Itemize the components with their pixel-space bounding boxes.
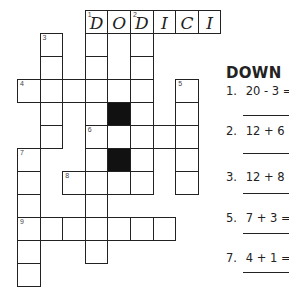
grid-cell[interactable] — [130, 33, 154, 57]
black-cell — [107, 102, 131, 126]
grid-cell[interactable]: C — [175, 10, 199, 34]
grid-cell[interactable] — [17, 240, 41, 264]
grid-cell[interactable] — [17, 263, 41, 287]
grid-cell[interactable] — [85, 79, 109, 103]
cell-number: 6 — [88, 126, 92, 133]
cell-number: 7 — [20, 149, 24, 156]
cell-letter: D — [131, 13, 153, 33]
grid-cell[interactable] — [40, 102, 64, 126]
answer-line-2[interactable] — [243, 153, 289, 154]
grid-cell[interactable] — [17, 171, 41, 195]
clue-text: 20 - 3 = — [246, 84, 289, 98]
grid-cell[interactable] — [130, 102, 154, 126]
clue-text: 7 + 3 = — [246, 211, 289, 225]
grid-cell[interactable] — [85, 194, 109, 218]
grid-cell[interactable]: 6 — [85, 125, 109, 149]
grid-cell[interactable] — [175, 171, 199, 195]
grid-cell[interactable]: 7 — [17, 148, 41, 172]
cell-number: 8 — [65, 172, 69, 179]
grid-cell[interactable] — [107, 171, 131, 195]
clue-3: 3. 12 + 8 = — [226, 170, 289, 184]
grid-cell[interactable] — [40, 125, 64, 149]
grid-cell[interactable]: I — [198, 10, 222, 34]
clue-5: 5. 7 + 3 = — [226, 211, 289, 225]
grid-cell[interactable] — [40, 217, 64, 241]
grid-cell[interactable] — [85, 240, 109, 264]
grid-cell[interactable] — [175, 102, 199, 126]
grid-cell[interactable] — [153, 217, 177, 241]
clue-number: 1. — [226, 84, 242, 98]
clue-2: 2. 12 + 6 = — [226, 124, 289, 138]
grid-cell[interactable] — [17, 194, 41, 218]
grid-cell[interactable] — [130, 217, 154, 241]
grid-cell[interactable]: 4 — [17, 79, 41, 103]
clues-heading: DOWN — [226, 64, 289, 82]
clue-7: 7. 4 + 1 = — [226, 251, 289, 265]
grid-cell[interactable] — [40, 56, 64, 80]
clue-text: 4 + 1 = — [246, 251, 289, 265]
grid-cell[interactable] — [40, 79, 64, 103]
grid-cell[interactable] — [175, 125, 199, 149]
grid-cell[interactable] — [130, 171, 154, 195]
cell-number: 3 — [43, 34, 47, 41]
cell-letter: O — [108, 13, 130, 33]
grid-cell[interactable]: 5 — [175, 79, 199, 103]
clues-panel: DOWN 1. 20 - 3 = 2. 12 + 6 = 3. 12 + 8 =… — [226, 64, 289, 82]
clue-text: 12 + 6 = — [246, 124, 289, 138]
cell-number: 5 — [178, 80, 182, 87]
grid-cell[interactable]: 2D — [130, 10, 154, 34]
grid-cell[interactable] — [130, 125, 154, 149]
grid-cell[interactable] — [85, 102, 109, 126]
answer-line-3[interactable] — [243, 193, 289, 194]
grid-cell[interactable] — [107, 125, 131, 149]
clue-number: 5. — [226, 211, 242, 225]
cell-letter: I — [199, 13, 221, 33]
grid-cell[interactable]: 8 — [62, 171, 86, 195]
grid-cell[interactable]: I — [153, 10, 177, 34]
grid-cell[interactable] — [85, 217, 109, 241]
cell-number: 9 — [20, 218, 24, 225]
cell-letter: I — [154, 13, 176, 33]
grid-cell[interactable] — [85, 148, 109, 172]
cell-number: 4 — [20, 80, 24, 87]
grid-cell[interactable] — [130, 79, 154, 103]
black-cell — [107, 148, 131, 172]
answer-line-1[interactable] — [243, 115, 289, 116]
answer-line-7[interactable] — [243, 272, 289, 273]
grid-cell[interactable] — [130, 56, 154, 80]
clue-text: 12 + 8 = — [246, 170, 289, 184]
grid-cell[interactable]: O — [107, 10, 131, 34]
grid-cell[interactable] — [130, 148, 154, 172]
cell-letter: C — [176, 13, 198, 33]
grid-cell[interactable]: 1D — [85, 10, 109, 34]
grid-cell[interactable] — [175, 148, 199, 172]
grid-cell[interactable] — [85, 171, 109, 195]
grid-cell[interactable]: 9 — [17, 217, 41, 241]
clue-number: 3. — [226, 170, 242, 184]
grid-cell[interactable] — [85, 56, 109, 80]
clue-number: 7. — [226, 251, 242, 265]
cell-letter: D — [86, 13, 108, 33]
grid-cell[interactable] — [107, 217, 131, 241]
grid-cell[interactable]: 3 — [40, 33, 64, 57]
clue-number: 2. — [226, 124, 242, 138]
grid-cell[interactable] — [153, 125, 177, 149]
answer-line-5[interactable] — [243, 233, 289, 234]
grid-cell[interactable] — [62, 79, 86, 103]
grid-cell[interactable] — [107, 79, 131, 103]
grid-cell[interactable] — [62, 217, 86, 241]
grid-cell[interactable] — [85, 33, 109, 57]
clue-1: 1. 20 - 3 = — [226, 84, 289, 98]
